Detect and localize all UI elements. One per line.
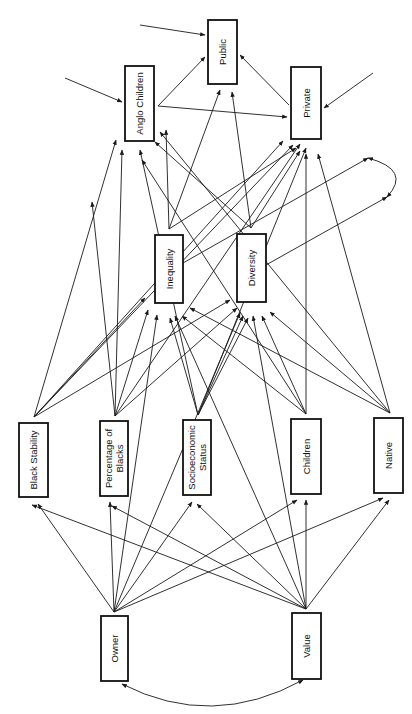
- arrow-ses-inequality: [170, 318, 198, 415]
- nodes-layer: PublicAnglo ChildrenPrivateInequalityDiv…: [19, 20, 403, 681]
- node-children: Children: [291, 419, 321, 494]
- arrow-disturbance-anglo: [65, 78, 122, 102]
- node-label: Inequality: [164, 248, 175, 289]
- curve-inequality-diversity-loop: [368, 158, 396, 197]
- arrow-anglo-public: [158, 57, 205, 106]
- arrow-ses-diversity2: [198, 318, 248, 415]
- arrow-native-private: [318, 154, 390, 413]
- arrow-ses-diversity: [198, 316, 243, 415]
- node-black-stability: Black Stability: [19, 423, 48, 497]
- node-value: Value: [292, 613, 321, 679]
- arrow-blackstab-inequality: [34, 298, 145, 417]
- node-label: Private: [301, 88, 312, 118]
- arrow-private-public: [240, 55, 289, 105]
- node-label: Owner: [109, 635, 120, 663]
- arrow-diversity-public: [232, 92, 251, 228]
- node-label: Percentage of: [103, 429, 114, 489]
- node-diversity: Diversity: [237, 234, 266, 302]
- arrow-diversity-loop: [266, 197, 387, 265]
- path-diagram: PublicAnglo ChildrenPrivateInequalityDiv…: [0, 0, 412, 714]
- arrow-pctblacks-up: [92, 202, 115, 416]
- node-label: Blacks: [114, 444, 125, 472]
- node-private: Private: [291, 67, 321, 139]
- node-inequality: Inequality: [155, 235, 183, 303]
- arrow-inequality-private: [169, 148, 296, 229]
- node-label: Value: [301, 634, 312, 658]
- node-native: Native: [374, 418, 403, 493]
- node-label: Children: [301, 439, 312, 474]
- node-ses: SocioeconomicStatus: [183, 420, 211, 495]
- node-owner: Owner: [101, 616, 128, 681]
- arrow-disturbance-public: [140, 25, 205, 35]
- arrow-owner-blackstab: [38, 504, 114, 612]
- node-label: Anglo Children: [134, 72, 145, 134]
- arrow-pctblacks-private: [115, 144, 300, 416]
- arrow-pctblacks-inequality: [115, 310, 148, 416]
- node-anglo-children: Anglo Children: [125, 66, 154, 141]
- arrow-value-blackstab: [32, 505, 306, 609]
- arrow-diversity-private: [251, 151, 300, 228]
- arrow-native-diversity: [270, 312, 390, 413]
- node-public: Public: [208, 20, 237, 84]
- arrow-pctblacks-anglo: [115, 150, 122, 416]
- arrow-anglo-private: [158, 106, 287, 117]
- arrow-native-anglo: [160, 132, 390, 413]
- node-label: Black Stability: [28, 430, 39, 489]
- arrow-inequality-loop: [183, 158, 368, 263]
- arrow-value-native: [306, 500, 389, 609]
- node-label: Native: [383, 442, 394, 469]
- arrow-disturbance-private: [324, 73, 373, 108]
- node-label: Socioeconomic: [186, 425, 197, 490]
- curve-owner-value-correlation: [122, 680, 303, 706]
- edges-layer: [32, 25, 390, 612]
- arrow-owner-pctblacks: [110, 502, 114, 612]
- arrow-inequality-public: [169, 90, 220, 229]
- node-label: Status: [197, 444, 208, 471]
- arrow-inequality-anglo: [166, 130, 169, 229]
- node-percentage-blacks: Percentage ofBlacks: [100, 421, 128, 496]
- arrow-children-inequality: [182, 316, 306, 414]
- node-label: Diversity: [246, 250, 257, 287]
- arrow-value-pctblacks: [112, 506, 306, 609]
- node-label: Public: [217, 39, 228, 65]
- arrow-pctblacks-diversity: [115, 308, 237, 416]
